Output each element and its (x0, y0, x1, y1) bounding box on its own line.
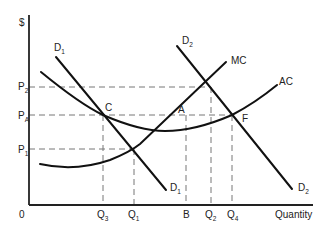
point-label-c: C (105, 102, 112, 113)
price-label-p1: P1 (18, 144, 29, 157)
point-label-a: A (178, 104, 185, 115)
curve-label-d2-bottom: D2 (298, 182, 309, 195)
quantity-label-q4: Q4 (227, 209, 239, 222)
demand-curve-d1 (56, 57, 166, 190)
curve-label-d2-top: D2 (182, 35, 193, 48)
price-label-p2: P2 (18, 81, 29, 94)
quantity-label-q3: Q3 (97, 209, 109, 222)
quantity-label-b: B (183, 209, 190, 220)
point-label-f: F (242, 113, 248, 124)
curve-label-d1-bottom: D1 (170, 182, 181, 195)
origin-label: 0 (19, 209, 25, 220)
x-axis-label: Quantity (275, 209, 312, 220)
quantity-label-q1: Q1 (128, 209, 140, 222)
y-axis-label: $ (19, 17, 25, 28)
demand-curve-d2 (177, 46, 292, 189)
curve-label-ac: AC (279, 76, 293, 87)
curve-label-d1-top: D1 (54, 42, 65, 55)
quantity-label-q2: Q2 (205, 209, 217, 222)
curve-label-mc: MC (231, 55, 247, 66)
cost-demand-diagram: $ 0 Quantity P2 PA P1 Q3 Q1 B Q2 Q4 D1 D… (0, 0, 330, 234)
price-label-pa: PA (18, 110, 30, 123)
curves (40, 46, 292, 190)
axes (29, 15, 313, 205)
